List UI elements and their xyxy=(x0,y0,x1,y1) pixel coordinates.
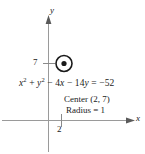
radius-annotation: Radius = 1 xyxy=(66,106,105,115)
equation-plus: + xyxy=(27,78,37,88)
x-axis-arrowhead xyxy=(126,117,135,123)
equation-minus-second: − xyxy=(64,78,74,88)
circle-equation: x2 + y2 − 4x − 14y = −52 xyxy=(19,79,114,89)
circle-graph-figure: y x 7 2 x2 + y2 − 4x − 14y = −52 Center … xyxy=(0,0,145,154)
equation-coefficient-y: 14 xyxy=(75,78,85,88)
equation-right-hand-side: −52 xyxy=(99,78,114,88)
center-point-dot xyxy=(61,61,66,66)
coordinate-plane-svg xyxy=(0,0,145,154)
y-axis-label: y xyxy=(50,6,54,15)
equation-minus-first: − xyxy=(45,78,55,88)
equation-equals-sign: = xyxy=(89,78,99,88)
x-tick-label-2: 2 xyxy=(57,125,62,134)
y-tick-label-7: 7 xyxy=(33,58,38,67)
y-axis-arrowhead xyxy=(46,15,52,24)
center-annotation: Center (2, 7) xyxy=(64,95,110,104)
x-axis-label: x xyxy=(136,114,140,123)
